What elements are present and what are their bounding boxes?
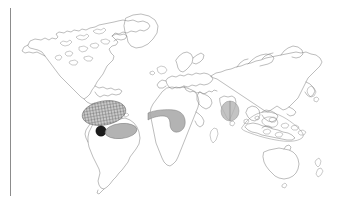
landmass-australia [263, 145, 299, 188]
world-map [0, 0, 356, 206]
landmass-north-america [22, 20, 150, 107]
range-northern-andes-point [96, 126, 106, 136]
landmass-europe [150, 52, 217, 94]
landmass-arabia [197, 92, 212, 109]
range-northern-south-america-gray [104, 122, 137, 140]
landmass-greenland [124, 14, 158, 48]
range-india-sri-lanka-gray [221, 101, 239, 121]
world-distribution-figure [0, 0, 356, 206]
landmass-southeast-asia [244, 106, 306, 140]
range-west-central-africa-gray [148, 110, 185, 133]
landmass-new-zealand [315, 158, 323, 177]
